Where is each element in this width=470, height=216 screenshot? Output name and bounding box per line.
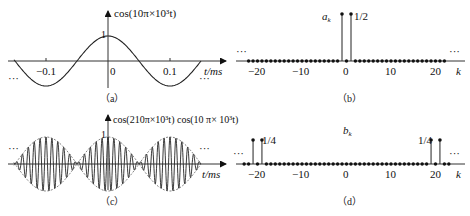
tick-label: −10 <box>292 168 310 180</box>
zero-dot <box>269 59 272 62</box>
coef-label: bk <box>343 124 353 138</box>
zero-dot <box>345 59 348 62</box>
zero-dot <box>429 59 432 62</box>
ellipsis-right: ··· <box>449 147 460 159</box>
zero-dot <box>283 162 286 165</box>
stem-value-label-right: 1/4 <box>418 134 433 146</box>
stem-head <box>340 12 344 16</box>
zero-dot <box>403 162 406 165</box>
zero-dot <box>278 162 281 165</box>
zero-dot <box>331 162 334 165</box>
zero-dot <box>309 59 312 62</box>
tick-label: −10 <box>292 65 310 77</box>
tick-label: 10 <box>385 65 397 77</box>
zero-dot <box>443 59 446 62</box>
zero-dot <box>376 59 379 62</box>
zero-dot <box>296 59 299 62</box>
caption-b: （b） <box>337 93 362 104</box>
panel-c: cos(210π×10³t) cos(10 π× 10³t) 1 t/ms ··… <box>8 114 238 207</box>
zero-dot <box>309 162 312 165</box>
zero-dot <box>367 59 370 62</box>
zero-dot <box>242 162 245 165</box>
zero-dot <box>256 162 259 165</box>
zero-dot <box>385 59 388 62</box>
zero-dot <box>372 59 375 62</box>
zero-dot <box>314 59 317 62</box>
stem-value-label-left: 1/4 <box>262 134 277 146</box>
ellipsis-left: ··· <box>8 142 19 154</box>
zero-dot <box>291 162 294 165</box>
zero-dot <box>412 59 415 62</box>
zero-dot <box>291 59 294 62</box>
stem-value-label: 1/2 <box>354 10 368 22</box>
zero-dot <box>300 59 303 62</box>
k-axis-label: k <box>456 168 462 180</box>
peak-label: 1 <box>101 29 106 40</box>
ellipsis-right: ··· <box>449 45 460 57</box>
zero-dot <box>367 162 370 165</box>
zero-dot <box>251 59 254 62</box>
function-label: cos(10π×10³t) <box>114 7 176 20</box>
tick-label: −0.1 <box>36 65 56 77</box>
zero-dot <box>247 59 250 62</box>
tick-label: 0 <box>343 168 349 180</box>
zero-dot <box>287 162 290 165</box>
zero-dot <box>274 162 277 165</box>
zero-dot <box>380 59 383 62</box>
zero-dot <box>323 59 326 62</box>
nonzero-stems <box>251 138 442 164</box>
ellipsis-right: ··· <box>199 142 210 154</box>
tick-label: 20 <box>430 65 442 77</box>
coef-label: ak <box>322 10 332 24</box>
tick-label: −20 <box>248 65 266 77</box>
stem-head <box>438 138 442 142</box>
zero-dot <box>425 59 428 62</box>
zero-dot <box>434 59 437 62</box>
zero-dot <box>336 162 339 165</box>
zero-dot <box>363 162 366 165</box>
origin-label: 0 <box>110 65 116 77</box>
ellipsis-right: ··· <box>199 72 210 84</box>
zero-dot <box>349 162 352 165</box>
zero-dot <box>305 162 308 165</box>
zero-dot <box>265 162 268 165</box>
zero-dot <box>420 59 423 62</box>
figure: cos(10π×10³t) 1 0 −0.1 0.1 t/ms ··· ··· … <box>0 0 470 216</box>
zero-dot <box>363 59 366 62</box>
zero-dot <box>354 59 357 62</box>
zero-dot <box>314 162 317 165</box>
zero-dot <box>260 59 263 62</box>
zero-dot <box>358 162 361 165</box>
zero-dot <box>438 59 441 62</box>
zero-dot <box>376 162 379 165</box>
zero-dot <box>443 162 446 165</box>
zero-dot <box>345 162 348 165</box>
zero-dot <box>283 59 286 62</box>
function-label: cos(210π×10³t) cos(10 π× 10³t) <box>113 114 238 126</box>
ellipsis-left: ··· <box>233 147 244 159</box>
ellipsis-left: ··· <box>8 72 19 84</box>
tick-label: −20 <box>248 168 266 180</box>
zero-dot <box>407 59 410 62</box>
ellipsis-left: ··· <box>236 45 247 57</box>
zero-dot <box>274 59 277 62</box>
panel-d: bk 1/4 1/4 −20 −10 0 10 20 k ··· ··· （d） <box>233 124 465 207</box>
stem-head <box>349 12 353 16</box>
caption-a: （a） <box>100 93 124 104</box>
zero-dot <box>287 59 290 62</box>
caption-c: （c） <box>100 196 124 207</box>
zero-dot <box>416 162 419 165</box>
zero-dot <box>403 59 406 62</box>
zero-dot <box>425 162 428 165</box>
zero-dot <box>394 59 397 62</box>
zero-dot <box>420 162 423 165</box>
tick-label: 10 <box>385 168 397 180</box>
zero-dot <box>336 59 339 62</box>
zero-dot <box>389 162 392 165</box>
zero-dot <box>296 162 299 165</box>
zero-dot <box>407 162 410 165</box>
stem-head <box>251 138 255 142</box>
tick-label: 0 <box>343 65 349 77</box>
peak-label: 1 <box>101 129 106 140</box>
zero-dot <box>265 59 268 62</box>
